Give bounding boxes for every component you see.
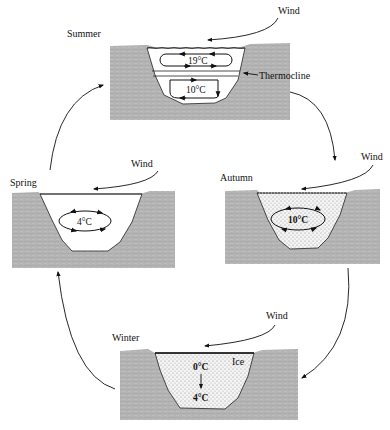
stage-winter: Winter Ice 0°C 4°C Wind xyxy=(112,310,298,420)
season-label-winter: Winter xyxy=(112,332,140,343)
wind-label-autumn: Wind xyxy=(361,151,383,162)
cycle-arrow-winter-to-spring-icon xyxy=(58,272,115,389)
temp-label-summer-upper: 19°C xyxy=(188,56,208,66)
cycle-arrow-summer-to-autumn-icon xyxy=(290,92,335,160)
lake-turnover-diagram: Summer 19°C 10°C Thermocline Wind Spring xyxy=(0,0,390,430)
season-label-autumn: Autumn xyxy=(220,172,253,183)
wind-arrow-icon xyxy=(205,325,275,346)
temp-label-winter-top: 0°C xyxy=(193,362,209,372)
cycle-arrow-autumn-to-winter-icon xyxy=(302,268,349,378)
thermocline-label: Thermocline xyxy=(259,70,311,81)
temp-label-spring: 4°C xyxy=(77,217,92,227)
temp-label-autumn: 10°C xyxy=(288,215,308,225)
wind-label-spring: Wind xyxy=(131,158,153,169)
stage-summer: Summer 19°C 10°C Thermocline Wind xyxy=(67,5,311,120)
wind-arrow-icon xyxy=(208,18,278,40)
temp-label-winter-bottom: 4°C xyxy=(193,393,209,403)
stage-autumn: Autumn 10°C Wind xyxy=(220,151,383,264)
cycle-arrow-spring-to-summer-icon xyxy=(50,85,103,170)
stage-spring: Spring 4°C Wind xyxy=(10,158,175,268)
season-label-spring: Spring xyxy=(10,177,37,188)
ice-label: Ice xyxy=(232,356,245,367)
wind-label-summer: Wind xyxy=(278,5,300,16)
wind-label-winter: Wind xyxy=(266,310,288,321)
wind-arrow-icon xyxy=(302,165,373,189)
wind-arrow-icon xyxy=(94,171,158,189)
season-label-summer: Summer xyxy=(67,28,102,39)
temp-label-summer-lower: 10°C xyxy=(186,85,206,95)
